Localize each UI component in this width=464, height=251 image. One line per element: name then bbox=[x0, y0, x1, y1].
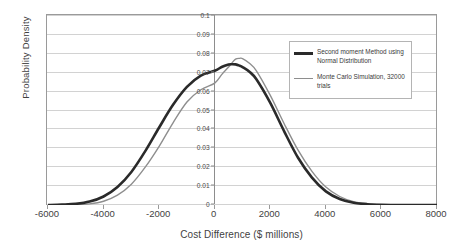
chart-legend: Second moment Method using Normal Distri… bbox=[289, 41, 412, 99]
x-tick-label: -2000 bbox=[146, 208, 170, 219]
legend-swatch-second-moment bbox=[294, 52, 313, 55]
x-tick-label: 4000 bbox=[314, 208, 335, 219]
x-tick-label: 0 bbox=[211, 208, 216, 219]
y-axis-title: Probability Density bbox=[20, 0, 31, 138]
y-tick-label: 0.1 bbox=[180, 12, 210, 19]
x-tick-mark bbox=[269, 205, 270, 209]
y-tick-mark bbox=[211, 71, 214, 72]
y-tick-mark bbox=[211, 109, 214, 110]
x-tick-mark bbox=[436, 205, 437, 209]
y-tick-label: 0 bbox=[180, 201, 210, 208]
legend-label-monte-carlo: Monte Carlo Simulation, 32000 trials bbox=[317, 73, 412, 90]
x-tick-label: 8000 bbox=[425, 208, 446, 219]
x-tick-label: -4000 bbox=[90, 208, 114, 219]
x-tick-mark bbox=[103, 205, 104, 209]
x-tick-mark bbox=[158, 205, 159, 209]
y-tick-label: 0.03 bbox=[180, 144, 210, 151]
legend-item-second-moment: Second moment Method using Normal Distri… bbox=[294, 48, 412, 65]
y-tick-label: 0.09 bbox=[180, 30, 210, 37]
x-tick-mark bbox=[47, 205, 48, 209]
y-tick-mark bbox=[211, 52, 214, 53]
x-tick-label: -6000 bbox=[35, 208, 59, 219]
x-tick-mark bbox=[380, 205, 381, 209]
y-tick-label: 0.05 bbox=[180, 106, 210, 113]
legend-label-second-moment: Second moment Method using Normal Distri… bbox=[317, 48, 412, 65]
y-tick-mark bbox=[211, 166, 214, 167]
y-tick-mark bbox=[211, 185, 214, 186]
x-tick-mark bbox=[214, 205, 215, 209]
x-tick-mark bbox=[325, 205, 326, 209]
legend-swatch-monte-carlo bbox=[294, 78, 313, 79]
x-axis-title: Cost Difference ($ millions) bbox=[46, 229, 437, 240]
x-tick-label: 2000 bbox=[259, 208, 280, 219]
probability-density-chart: Probability Density 00.010.020.030.040.0… bbox=[0, 0, 464, 251]
y-tick-mark bbox=[211, 15, 214, 16]
y-tick-label: 0.01 bbox=[180, 182, 210, 189]
y-tick-label: 0.08 bbox=[180, 49, 210, 56]
y-tick-mark bbox=[211, 147, 214, 148]
y-tick-mark bbox=[211, 90, 214, 91]
y-tick-label: 0.07 bbox=[180, 68, 210, 75]
legend-item-monte-carlo: Monte Carlo Simulation, 32000 trials bbox=[294, 73, 412, 90]
y-tick-mark bbox=[211, 33, 214, 34]
y-tick-label: 0.02 bbox=[180, 163, 210, 170]
x-tick-label: 6000 bbox=[370, 208, 391, 219]
y-tick-mark bbox=[211, 128, 214, 129]
y-tick-label: 0.04 bbox=[180, 125, 210, 132]
y-tick-label: 0.06 bbox=[180, 87, 210, 94]
